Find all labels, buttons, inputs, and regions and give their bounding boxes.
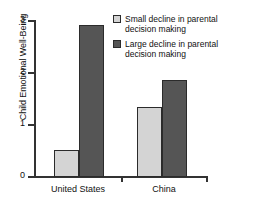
bar-china-large-decline (162, 80, 187, 177)
y-tick-label-0: 0 (20, 170, 25, 181)
x-tick-right (206, 177, 208, 182)
y-axis-line (34, 20, 36, 177)
x-tick-label-china: China (152, 184, 176, 194)
bar-chart: Child Emotional Well-Being 3 2 1 0 Unite… (0, 0, 253, 200)
y-tick-1: 1 (28, 124, 34, 126)
legend-label-large-decline: Large decline in parental decision makin… (125, 39, 251, 59)
legend-swatch-large-decline-icon (113, 40, 121, 48)
bar-united-states-small-decline (54, 150, 79, 177)
legend-swatch-small-decline-icon (113, 15, 121, 23)
x-tick-mid (121, 177, 123, 182)
y-tick-3: 3 (28, 20, 34, 22)
legend-item-small-decline: Small decline in parental decision makin… (113, 14, 251, 34)
legend: Small decline in parental decision makin… (113, 14, 251, 64)
legend-label-small-decline: Small decline in parental decision makin… (125, 14, 251, 34)
y-tick-label-1: 1 (20, 118, 25, 129)
bar-united-states-large-decline (79, 25, 104, 177)
y-tick-0: 0 (28, 176, 34, 178)
legend-item-large-decline: Large decline in parental decision makin… (113, 39, 251, 59)
bar-china-small-decline (137, 107, 162, 177)
y-tick-label-2: 2 (20, 66, 25, 77)
x-tick-label-united-states: United States (51, 184, 105, 194)
y-tick-label-3: 3 (20, 14, 25, 25)
y-tick-2: 2 (28, 72, 34, 74)
